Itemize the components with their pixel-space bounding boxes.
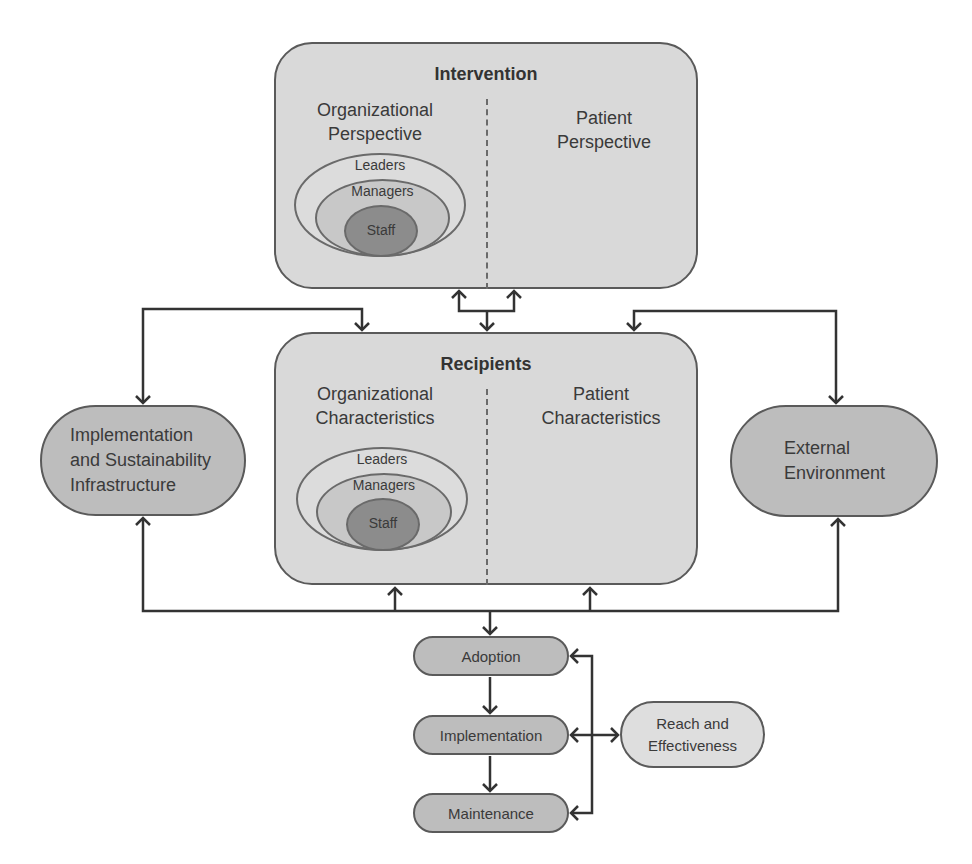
- intervention-patient-label-line1: Patient: [544, 106, 664, 130]
- arrowhead-down-icon: [483, 784, 497, 791]
- diagram-canvas: Intervention Organizational Perspective …: [0, 0, 972, 864]
- arrowhead-left-icon: [571, 649, 578, 663]
- intervention-divider: [486, 99, 488, 289]
- recipients-patient-label-line1: Patient: [520, 382, 682, 406]
- intervention-org-label: Organizational Perspective: [290, 98, 460, 146]
- recipients-org-label-line2: Characteristics: [290, 406, 460, 430]
- intervention-title: Intervention: [276, 64, 696, 85]
- infrastructure-label-line1: Implementation: [70, 423, 211, 448]
- arrowhead-left-icon: [571, 728, 578, 742]
- recipients-managers-label: Managers: [318, 477, 450, 493]
- arrowhead-up-icon: [388, 588, 402, 595]
- recipients-box: Recipients Organizational Characteristic…: [274, 332, 698, 585]
- intervention-link-bracket: [459, 291, 514, 311]
- implementation-node: Implementation: [413, 715, 569, 755]
- reach-effectiveness-label-line1: Reach and: [648, 713, 737, 735]
- maintenance-node: Maintenance: [413, 793, 569, 833]
- infrastructure-label: Implementation and Sustainability Infras…: [70, 423, 211, 498]
- infrastructure-node: Implementation and Sustainability Infras…: [40, 405, 246, 516]
- infrastructure-label-line3: Infrastructure: [70, 473, 211, 498]
- intervention-leaders-label: Leaders: [296, 157, 464, 173]
- intervention-org-label-line2: Perspective: [290, 122, 460, 146]
- maintenance-label: Maintenance: [448, 805, 534, 822]
- arrowhead-left-icon: [571, 806, 578, 820]
- recipients-org-label-line1: Organizational: [290, 382, 460, 406]
- arrowhead-down-icon: [480, 323, 494, 330]
- external-environment-label: External Environment: [784, 436, 885, 486]
- arrowhead-up-icon: [831, 519, 845, 526]
- intervention-org-label-line1: Organizational: [290, 98, 460, 122]
- recipients-staff-ellipse: Staff: [346, 498, 420, 551]
- intervention-staff-label: Staff: [346, 222, 416, 238]
- intervention-patient-label-line2: Perspective: [544, 130, 664, 154]
- arrowhead-right-icon: [611, 728, 618, 742]
- arrowhead-down-icon: [136, 396, 150, 403]
- reach-effectiveness-label: Reach and Effectiveness: [648, 713, 737, 757]
- arrowhead-down-icon: [829, 396, 843, 403]
- infrastructure-label-line2: and Sustainability: [70, 448, 211, 473]
- reach-effectiveness-node: Reach and Effectiveness: [620, 701, 765, 768]
- arrowhead-down-icon: [627, 323, 641, 330]
- intervention-managers-label: Managers: [317, 183, 448, 199]
- recipients-patient-label: Patient Characteristics: [520, 382, 682, 430]
- recipients-staff-label: Staff: [348, 515, 418, 531]
- adoption-label: Adoption: [461, 648, 520, 665]
- reach-bracket-line: [571, 656, 592, 813]
- implementation-label: Implementation: [440, 727, 543, 744]
- external-environment-label-line2: Environment: [784, 461, 885, 486]
- arrowhead-down-icon: [483, 627, 497, 634]
- arrowhead-up-icon: [452, 291, 466, 298]
- recipients-leaders-label: Leaders: [298, 451, 466, 467]
- arrowhead-up-icon: [583, 588, 597, 595]
- recipients-org-label: Organizational Characteristics: [290, 382, 460, 430]
- recipients-patient-label-line2: Characteristics: [520, 406, 682, 430]
- intervention-box: Intervention Organizational Perspective …: [274, 42, 698, 289]
- recipients-title: Recipients: [276, 354, 696, 375]
- intervention-patient-label: Patient Perspective: [544, 106, 664, 154]
- external-environment-label-line1: External: [784, 436, 885, 461]
- reach-effectiveness-label-line2: Effectiveness: [648, 735, 737, 757]
- intervention-staff-ellipse: Staff: [344, 205, 418, 257]
- arrowhead-down-icon: [483, 706, 497, 713]
- adoption-node: Adoption: [413, 636, 569, 676]
- arrowhead-up-icon: [136, 518, 150, 525]
- external-environment-node: External Environment: [730, 405, 938, 517]
- arrowhead-up-icon: [507, 291, 521, 298]
- arrowhead-down-icon: [355, 323, 369, 330]
- recipients-divider: [486, 389, 488, 585]
